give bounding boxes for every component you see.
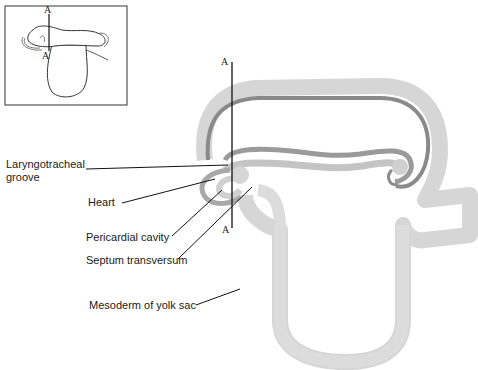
label-pericardial-cavity: Pericardial cavity <box>86 231 169 244</box>
label-line-2: groove <box>6 171 85 184</box>
inset-section-label-bottom: A <box>42 50 49 61</box>
label-laryngotracheal-groove: Laryngotracheal groove <box>6 158 85 184</box>
label-septum-transversum: Septum transversum <box>86 254 187 267</box>
label-line-1: Laryngotracheal <box>6 158 85 171</box>
embryo-diagram <box>0 0 478 370</box>
label-mesoderm-of-yolk-sac: Mesoderm of yolk sac <box>89 299 196 312</box>
label-heart: Heart <box>88 196 115 209</box>
sagittal-section <box>202 86 470 362</box>
inset-section-label-top: A <box>44 4 51 15</box>
section-label-bottom: A <box>222 224 229 235</box>
inset-orientation-sketch <box>5 6 127 105</box>
section-label-top: A <box>221 56 228 67</box>
